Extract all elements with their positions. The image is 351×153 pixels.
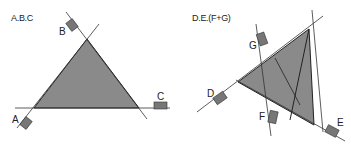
- marker-d: [213, 91, 227, 104]
- marker-g: [256, 32, 268, 46]
- abc-geometry: [15, 12, 170, 129]
- marker-f: [268, 110, 278, 123]
- defg-geometry: [197, 10, 345, 141]
- defg-triangle: [238, 29, 314, 125]
- marker-b: [66, 19, 78, 32]
- marker-a: [20, 117, 32, 130]
- marker-e: [325, 125, 339, 138]
- diagram-canvas: [0, 0, 351, 153]
- marker-c: [154, 102, 167, 109]
- abc-triangle: [34, 39, 139, 108]
